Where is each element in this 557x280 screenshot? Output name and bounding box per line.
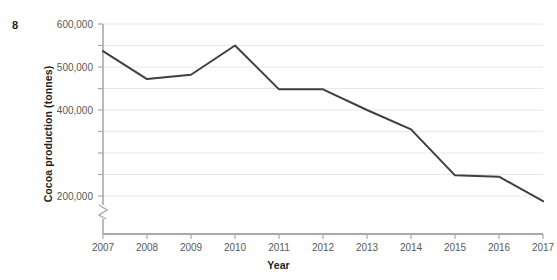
y-tick-label: 200,000 — [57, 191, 94, 202]
data-line-cocoa-production — [103, 46, 543, 202]
x-tick-label: 2016 — [488, 242, 511, 253]
x-axis-ticks: 2007200820092010201120122013201420152016… — [92, 234, 555, 253]
y-tick-label: 600,000 — [57, 19, 94, 30]
x-tick-label: 2007 — [92, 242, 115, 253]
y-tick-label: 500,000 — [57, 62, 94, 73]
data-series-group — [103, 46, 543, 202]
x-tick-label: 2017 — [532, 242, 555, 253]
x-tick-label: 2010 — [224, 242, 247, 253]
gridlines-group — [103, 24, 543, 196]
x-tick-label: 2009 — [180, 242, 203, 253]
x-tick-label: 2013 — [356, 242, 379, 253]
x-axis-title: Year — [0, 259, 557, 271]
x-tick-label: 2012 — [312, 242, 335, 253]
line-chart-plot: 600,000500,000400,000200,000 20072008200… — [0, 0, 557, 280]
x-tick-label: 2015 — [444, 242, 467, 253]
y-axis-ticks: 600,000500,000400,000200,000 — [57, 19, 103, 202]
x-tick-label: 2014 — [400, 242, 423, 253]
x-tick-label: 2008 — [136, 242, 159, 253]
figure-container: 8 Cocoa production (tonnes) 600,000500,0… — [0, 0, 557, 280]
y-tick-label: 400,000 — [57, 105, 94, 116]
y-axis-break-mark — [99, 205, 107, 219]
y-axis — [99, 24, 107, 234]
x-tick-label: 2011 — [268, 242, 290, 253]
